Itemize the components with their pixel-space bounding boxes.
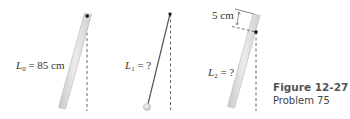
length-value: = ? — [218, 66, 235, 78]
pendulum-bob-icon — [143, 103, 150, 110]
pivot-dot-icon — [254, 30, 258, 34]
pivot-dot-icon — [169, 13, 172, 16]
length-value: = ? — [135, 59, 152, 71]
panel-1-length-label: L1 = ? — [125, 59, 151, 73]
pivot-dot-icon — [85, 14, 89, 18]
panel-2-rod-offset-pivot — [228, 9, 261, 111]
panel-0-length-label: L0 = 85 cm — [16, 59, 65, 73]
figure-caption-subtitle: Problem 75 — [273, 95, 330, 106]
length-value: = 85 cm — [26, 59, 65, 71]
pivot-offset-label: 5 cm — [212, 9, 234, 21]
pendulum-string — [148, 14, 170, 104]
panel-2-length-label: L2 = ? — [208, 66, 234, 80]
figure-caption-title: Figure 12-27 — [273, 81, 348, 93]
dimension-arrow-icon — [236, 12, 241, 25]
rod — [228, 14, 261, 108]
